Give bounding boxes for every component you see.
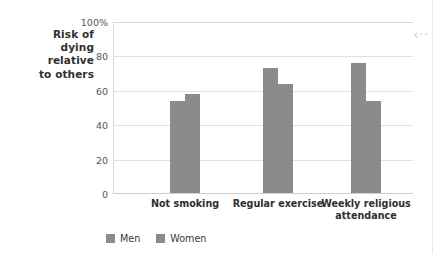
x-axis-category-label: Weekly religiousattendance [311,198,421,221]
y-axis-title-line: dying [8,41,94,54]
x-axis-category-label-line: Weekly religious [311,198,421,210]
y-axis-title-line: relative [8,54,94,67]
bar-men [170,101,185,194]
bar-group [170,22,200,194]
page-edge-rule [432,0,433,254]
legend-label: Men [120,233,140,244]
legend-swatch-icon [106,234,115,243]
y-axis-title-line: Risk of [8,28,94,41]
bar-men [351,63,366,194]
y-axis-tick-label: 100% [81,17,108,28]
y-axis-title-line: to others [8,68,94,81]
bar-women [185,94,200,194]
y-axis-tick-label: 0 [102,189,108,200]
plot-area: 020406080100% [113,22,413,194]
bar-group [351,22,381,194]
x-axis-category-labels: Not smokingRegular exerciseWeekly religi… [113,198,413,230]
bar-group [263,22,293,194]
bar-series-container [113,22,413,194]
bar-women [278,84,293,194]
legend-item-women: Women [156,233,206,244]
bar-chart-figure: Risk ofdyingrelativeto others 0204060801… [0,0,440,254]
bar-men [263,68,278,194]
bar-women [366,101,381,194]
chart-legend: MenWomen [106,233,206,244]
y-axis-tick-label: 80 [96,51,108,62]
annotation-arrow-icon: ‹·· [414,28,429,42]
y-axis-title: Risk ofdyingrelativeto others [8,28,94,81]
legend-label: Women [170,233,206,244]
y-axis-tick-label: 40 [96,120,108,131]
x-axis-category-label-line: attendance [311,210,421,222]
y-axis-tick-label: 60 [96,85,108,96]
legend-swatch-icon [156,234,165,243]
y-axis-tick-label: 20 [96,154,108,165]
x-axis-baseline [113,193,413,194]
legend-item-men: Men [106,233,140,244]
